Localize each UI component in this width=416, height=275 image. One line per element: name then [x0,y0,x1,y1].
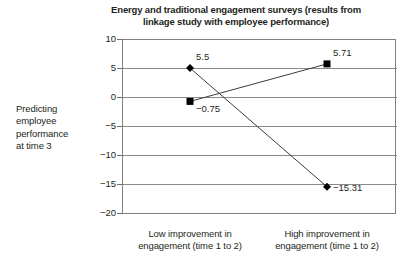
ytick-mark-10 [117,39,122,40]
ytick-mark-neg10 [117,155,122,156]
x-category-label-high-line-2: engagement (time 1 to 2) [252,240,402,252]
ytick-label-neg15: −15 [86,179,116,189]
point-label-diamond-low: 5.5 [196,52,209,62]
ytick-label-neg10: −10 [86,150,116,160]
x-category-label-low-line-2: engagement (time 1 to 2) [115,240,265,252]
gridline-0 [123,97,397,98]
point-label-diamond-high: −15.31 [333,183,362,193]
point-label-square-high: 5.71 [333,48,352,58]
ytick-mark-5 [117,68,122,69]
gridline-neg10 [123,155,397,156]
ytick-mark-neg15 [117,184,122,185]
chart-figure: Energy and traditional engagement survey… [0,0,416,275]
y-axis-tick-labels: 10 5 0 −5 −10 −15 −20 [84,0,116,275]
ytick-label-neg20: −20 [86,208,116,218]
ytick-mark-0 [117,97,122,98]
ytick-label-5: 5 [86,63,116,73]
ytick-label-10: 10 [86,34,116,44]
x-category-label-high-line-1: High improvement in [252,228,402,240]
x-category-label-low-line-1: Low improvement in [115,228,265,240]
point-label-square-low: −0.75 [196,104,220,114]
ytick-label-neg5: −5 [86,121,116,131]
ytick-label-0: 0 [86,92,116,102]
ytick-mark-neg20 [117,213,122,214]
x-category-label-high: High improvement in engagement (time 1 t… [252,228,402,253]
ytick-mark-neg5 [117,126,122,127]
gridline-5 [123,68,397,69]
x-category-label-low: Low improvement in engagement (time 1 to… [115,228,265,253]
gridline-neg5 [123,126,397,127]
